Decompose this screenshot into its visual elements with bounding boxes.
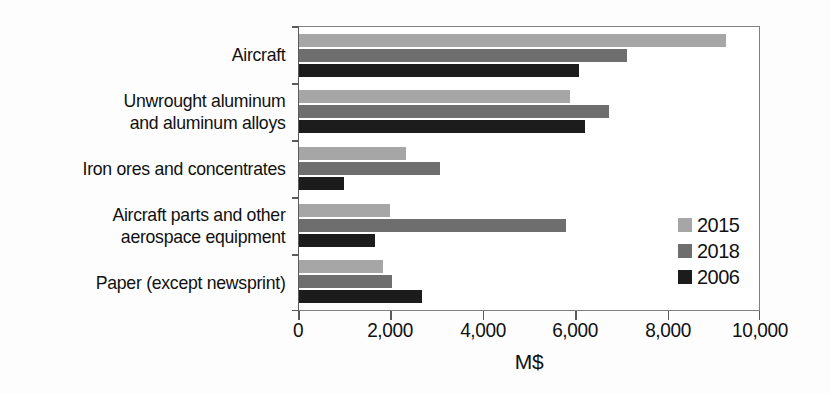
bar-2018[interactable] xyxy=(299,275,392,288)
category-label-iron-ores: Iron ores and concentrates xyxy=(20,140,292,197)
bar-2006[interactable] xyxy=(299,177,344,190)
bar-row xyxy=(299,162,759,175)
legend-swatch-icon xyxy=(678,244,692,258)
value-tick-label: 10,000 xyxy=(732,320,788,340)
bar-row xyxy=(299,177,759,190)
legend-item-2006[interactable]: 2006 xyxy=(678,266,742,287)
category-axis: Aircraft Unwrought aluminum and aluminum… xyxy=(0,26,292,311)
category-label-paper: Paper (except newsprint) xyxy=(20,254,292,311)
bar-2006[interactable] xyxy=(299,290,422,303)
category-label-aircraft: Aircraft xyxy=(20,26,292,83)
bar-2015[interactable] xyxy=(299,147,406,160)
legend-swatch-icon xyxy=(678,218,692,232)
bar-row xyxy=(299,64,759,77)
bar-2018[interactable] xyxy=(299,162,440,175)
bar-2006[interactable] xyxy=(299,64,579,77)
value-tick-label: 8,000 xyxy=(645,320,691,340)
category-label-aircraft-parts: Aircraft parts and other aerospace equip… xyxy=(20,197,292,254)
legend-swatch-icon xyxy=(678,270,692,284)
bar-row xyxy=(299,105,759,118)
bar-group xyxy=(299,27,759,84)
bar-group xyxy=(299,140,759,197)
bar-row xyxy=(299,147,759,160)
value-tick-label: 6,000 xyxy=(552,320,598,340)
value-tick-label: 0 xyxy=(293,320,303,340)
bar-2015[interactable] xyxy=(299,34,726,47)
bar-row xyxy=(299,290,759,303)
bar-row xyxy=(299,49,759,62)
category-label-unwrought-aluminum: Unwrought aluminum and aluminum alloys xyxy=(20,83,292,140)
value-tick-label: 4,000 xyxy=(460,320,506,340)
legend-label: 2018 xyxy=(697,240,739,261)
bar-2018[interactable] xyxy=(299,219,566,232)
legend-item-2018[interactable]: 2018 xyxy=(678,240,742,261)
bar-chart: Aircraft Unwrought aluminum and aluminum… xyxy=(0,0,831,394)
bar-2018[interactable] xyxy=(299,49,627,62)
bar-2015[interactable] xyxy=(299,260,383,273)
legend-label: 2006 xyxy=(697,266,739,287)
bar-2018[interactable] xyxy=(299,105,609,118)
bar-2015[interactable] xyxy=(299,204,390,217)
value-axis-labels: 02,0004,0006,0008,00010,000 xyxy=(0,320,831,350)
value-tick-label: 2,000 xyxy=(368,320,414,340)
bar-2015[interactable] xyxy=(299,90,570,103)
bar-row xyxy=(299,34,759,47)
x-axis-title: M$ xyxy=(298,350,760,374)
bar-row xyxy=(299,90,759,103)
legend: 201520182006 xyxy=(678,214,742,287)
bar-group xyxy=(299,84,759,141)
bar-2006[interactable] xyxy=(299,120,585,133)
legend-label: 2015 xyxy=(697,214,739,235)
bar-2006[interactable] xyxy=(299,234,375,247)
legend-item-2015[interactable]: 2015 xyxy=(678,214,742,235)
bar-row xyxy=(299,120,759,133)
